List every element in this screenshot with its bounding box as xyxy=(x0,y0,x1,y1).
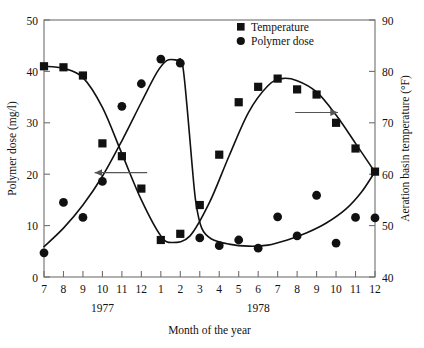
y-tick-label-50: 50 xyxy=(27,15,39,27)
polymer-dose-temperature-chart: 0102030405040506070809078910111212345678… xyxy=(0,0,424,348)
data-point-temperature-17 xyxy=(371,168,379,176)
x-tick-label-9: 4 xyxy=(216,283,222,295)
y-tick-label-40: 40 xyxy=(27,66,39,78)
y2-tick-label-70: 70 xyxy=(382,117,394,129)
data-point-temperature-12 xyxy=(274,75,282,83)
data-point-polymer-dose-8 xyxy=(195,234,204,243)
y-tick-label-0: 0 xyxy=(32,272,38,284)
x-tick-label-1: 8 xyxy=(61,283,67,295)
y-tick-label-10: 10 xyxy=(27,220,39,232)
data-point-polymer-dose-9 xyxy=(215,241,224,250)
x-tick-label-7: 2 xyxy=(177,283,183,295)
x-tick-label-0: 7 xyxy=(41,283,47,295)
data-point-polymer-dose-4 xyxy=(117,102,126,111)
y2-tick-label-40: 40 xyxy=(382,272,394,284)
y-tick-label-30: 30 xyxy=(27,117,39,129)
figure-container: 0102030405040506070809078910111212345678… xyxy=(0,0,424,348)
legend-marker-polymer-dose xyxy=(237,37,245,45)
data-point-temperature-11 xyxy=(254,83,262,91)
x-tick-label-15: 10 xyxy=(330,283,342,295)
legend-marker-temperature xyxy=(237,23,245,31)
data-point-polymer-dose-3 xyxy=(98,177,107,186)
x-tick-label-8: 3 xyxy=(197,283,203,295)
fit-curve-polymer-dose xyxy=(44,59,373,247)
data-point-temperature-4 xyxy=(118,152,126,160)
data-point-temperature-2 xyxy=(79,71,87,79)
y2-tick-label-90: 90 xyxy=(382,15,394,27)
data-point-polymer-dose-13 xyxy=(293,231,302,240)
data-point-polymer-dose-14 xyxy=(312,191,321,200)
data-point-temperature-6 xyxy=(157,236,165,244)
fit-curve-temperature xyxy=(44,66,375,242)
data-point-polymer-dose-10 xyxy=(234,236,243,245)
x-tick-label-2: 9 xyxy=(80,283,86,295)
x-tick-label-6: 1 xyxy=(158,283,164,295)
data-point-polymer-dose-1 xyxy=(59,198,68,207)
data-point-temperature-14 xyxy=(312,90,320,98)
y-tick-label-20: 20 xyxy=(27,169,39,181)
data-point-polymer-dose-16 xyxy=(351,213,360,222)
x-tick-label-12: 7 xyxy=(275,283,281,295)
data-point-temperature-1 xyxy=(59,63,67,71)
x-tick-label-16: 11 xyxy=(350,283,361,295)
y2-tick-label-80: 80 xyxy=(382,66,394,78)
x-tick-label-17: 12 xyxy=(369,283,381,295)
x-axis-title: Month of the year xyxy=(168,324,251,337)
data-point-temperature-13 xyxy=(293,85,301,93)
data-point-temperature-7 xyxy=(176,230,184,238)
x-tick-label-13: 8 xyxy=(294,283,300,295)
data-point-polymer-dose-11 xyxy=(254,244,263,253)
y2-tick-label-60: 60 xyxy=(382,169,394,181)
data-point-temperature-10 xyxy=(235,98,243,106)
data-point-temperature-3 xyxy=(98,139,106,147)
data-point-temperature-15 xyxy=(332,119,340,127)
group-label-1977: 1977 xyxy=(91,302,114,314)
group-label-1978: 1978 xyxy=(247,302,270,314)
legend-label-polymer-dose: Polymer dose xyxy=(251,35,314,48)
data-point-polymer-dose-15 xyxy=(332,239,341,248)
data-point-temperature-0 xyxy=(40,62,48,70)
data-point-polymer-dose-6 xyxy=(156,55,165,64)
x-tick-label-11: 6 xyxy=(255,283,261,295)
data-point-polymer-dose-12 xyxy=(273,212,282,221)
y-axis-title: Polymer dose (mg/l) xyxy=(6,101,19,196)
data-point-polymer-dose-2 xyxy=(79,213,88,222)
data-point-temperature-5 xyxy=(137,184,145,192)
x-tick-label-10: 5 xyxy=(236,283,242,295)
data-point-temperature-16 xyxy=(351,144,359,152)
data-point-polymer-dose-17 xyxy=(371,213,380,222)
data-point-polymer-dose-0 xyxy=(40,248,49,257)
x-tick-label-3: 10 xyxy=(97,283,109,295)
data-point-temperature-9 xyxy=(215,151,223,159)
legend-label-temperature: Temperature xyxy=(251,21,309,34)
x-tick-label-5: 12 xyxy=(136,283,148,295)
y2-axis-title: Aeration basin temperature (°F) xyxy=(399,75,412,222)
data-point-polymer-dose-7 xyxy=(176,59,185,68)
x-tick-label-4: 11 xyxy=(116,283,127,295)
x-tick-label-14: 9 xyxy=(314,283,320,295)
y2-tick-label-50: 50 xyxy=(382,220,394,232)
data-point-polymer-dose-5 xyxy=(137,79,146,88)
